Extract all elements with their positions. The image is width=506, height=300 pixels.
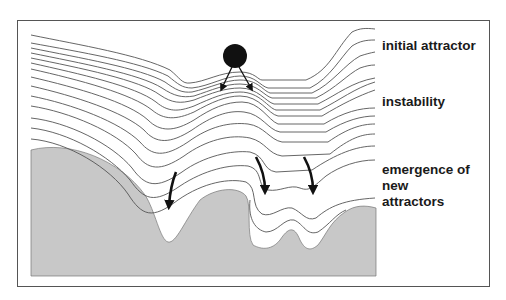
label-emergence-line3: attractors bbox=[382, 194, 470, 210]
label-emergence-line2: new bbox=[382, 178, 470, 194]
label-emergence: emergence of new attractors bbox=[382, 162, 470, 210]
label-initial-attractor: initial attractor bbox=[382, 38, 476, 54]
label-emergence-line1: emergence of bbox=[382, 162, 470, 178]
label-instability: instability bbox=[382, 94, 445, 110]
system-state-ball bbox=[223, 44, 247, 68]
